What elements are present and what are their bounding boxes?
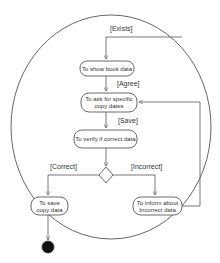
action-show-book-data-label: To show book data <box>82 66 133 72</box>
decision-node <box>99 167 113 183</box>
action-save-copy-data-label-2: copy data <box>36 207 63 213</box>
flow-exists <box>106 37 182 59</box>
action-inform-incorrect-label-2: Incorrect data <box>139 207 176 213</box>
action-save-copy-data-label-1: To save <box>39 200 60 206</box>
action-ask-copy-dates-label-2: copy dates <box>94 103 123 109</box>
final-node-icon <box>42 241 54 253</box>
flow-correct <box>48 175 99 195</box>
guard-agree: [Agree] <box>117 80 140 88</box>
activity-diagram: [Exists] To show book data [Agree] To as… <box>0 0 220 263</box>
guard-exists: [Exists] <box>110 25 133 33</box>
flow-retry-loop <box>139 102 200 206</box>
guard-incorrect: [Incorrect] <box>131 163 162 171</box>
action-verify-data-label: To verify if correct data <box>75 136 136 142</box>
guard-save: [Save] <box>118 117 138 125</box>
action-inform-incorrect-label-1: To inform about <box>137 200 179 206</box>
action-ask-copy-dates-label-1: To ask for specific <box>85 96 133 102</box>
guard-correct: [Correct] <box>50 163 77 171</box>
flow-incorrect <box>113 175 155 195</box>
